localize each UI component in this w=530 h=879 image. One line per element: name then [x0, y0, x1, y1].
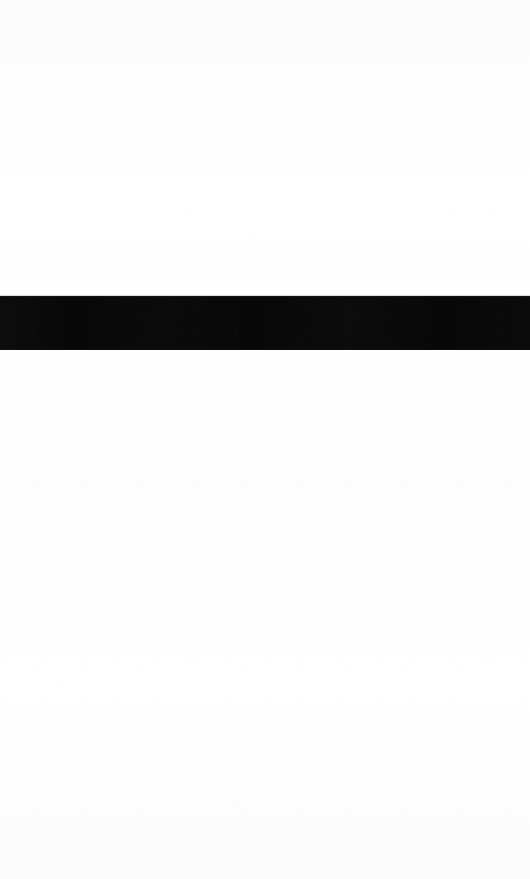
- blank-area-below-redaction: [0, 350, 530, 879]
- redaction-bar: [0, 296, 530, 350]
- document-page: [0, 0, 530, 879]
- blank-area-above-redaction: [0, 0, 530, 296]
